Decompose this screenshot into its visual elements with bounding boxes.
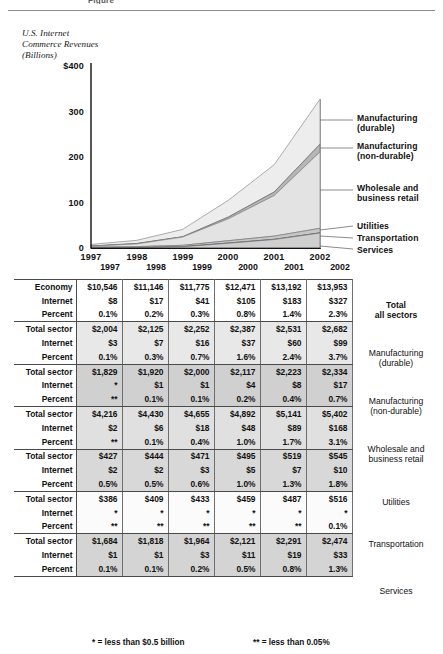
table-cell: $1 xyxy=(76,548,122,562)
table-cell: 0.2% xyxy=(214,392,260,406)
table-cell: 1.0% xyxy=(214,477,260,491)
table-cell: $2,682 xyxy=(306,322,352,336)
row-label: Percent xyxy=(14,308,76,322)
table-cell: $17 xyxy=(306,379,352,393)
table-cell: $105 xyxy=(214,294,260,308)
table-row: Percent0.1%0.1%0.2%0.5%0.8%1.3% xyxy=(14,562,352,576)
table-cell: 0.8% xyxy=(214,308,260,322)
table-cell: $2,117 xyxy=(214,364,260,378)
table-cell: 0.7% xyxy=(306,392,352,406)
table-cell: 0.2% xyxy=(168,562,214,576)
table-cell: $2,252 xyxy=(168,322,214,336)
table-cell: 1.0% xyxy=(214,435,260,449)
row-label: Total sector xyxy=(14,364,76,378)
table-cell: $427 xyxy=(76,449,122,463)
table-cell: $8 xyxy=(260,379,306,393)
x-tick-2000: 2000 xyxy=(208,252,248,262)
table-cell: 0.1% xyxy=(122,392,168,406)
table-cell: * xyxy=(168,506,214,520)
row-label: Percent xyxy=(14,477,76,491)
table-cell: $516 xyxy=(306,491,352,505)
table-cell: $37 xyxy=(214,336,260,350)
table-cell: 0.1% xyxy=(76,350,122,364)
table-cell: $471 xyxy=(168,449,214,463)
row-label: Internet xyxy=(14,548,76,562)
table-cell: $433 xyxy=(168,491,214,505)
table-row: Percent0.5%0.5%0.6%1.0%1.3%1.8% xyxy=(14,477,352,491)
table-cell: $5 xyxy=(214,463,260,477)
table-cell: $2,125 xyxy=(122,322,168,336)
legend-leader-lines xyxy=(320,120,353,249)
table-cell: 1.6% xyxy=(214,350,260,364)
sector-label-manufacturing-nondurable: Manufacturing (non-durable) xyxy=(350,396,442,417)
table-cell: 0.1% xyxy=(168,392,214,406)
table-cell: $2,223 xyxy=(260,364,306,378)
sector-label-manufacturing-durable: Manufacturing (durable) xyxy=(350,348,442,369)
table-grid: Economy$10,546$11,146$11,775$12,471$13,1… xyxy=(14,279,353,577)
table-row: Percent**0.1%0.1%0.2%0.4%0.7% xyxy=(14,392,352,406)
table-cell: 1.3% xyxy=(260,477,306,491)
table-cell: 0.8% xyxy=(260,562,306,576)
table-cell: 3.7% xyxy=(306,350,352,364)
table-cell: $2,334 xyxy=(306,364,352,378)
table-row: Internet$8$17$41$105$183$327 xyxy=(14,294,352,308)
table-cell: $13,192 xyxy=(260,280,306,294)
legend-utilities: Utilities xyxy=(357,221,389,231)
table-cell: $11 xyxy=(214,548,260,562)
table-cell: 1.7% xyxy=(260,435,306,449)
table-cell: 0.6% xyxy=(168,477,214,491)
table-cell: $7 xyxy=(122,336,168,350)
table-cell: $4 xyxy=(214,379,260,393)
table-cell: $519 xyxy=(260,449,306,463)
col-header-2002: 2002 xyxy=(317,262,363,272)
table-cell: $2,387 xyxy=(214,322,260,336)
table-row: Total sector$427$444$471$495$519$545 xyxy=(14,449,352,463)
col-header-1999: 1999 xyxy=(179,262,225,272)
table-cell: 0.3% xyxy=(122,350,168,364)
table-cell: $2,004 xyxy=(76,322,122,336)
x-tick-1997: 1997 xyxy=(71,252,111,262)
table-cell: $2,474 xyxy=(306,534,352,548)
table-cell: $11,146 xyxy=(122,280,168,294)
table-cell: ** xyxy=(76,520,122,534)
table-cell: ** xyxy=(214,520,260,534)
col-header-2001: 2001 xyxy=(271,262,317,272)
x-tick-2001: 2001 xyxy=(254,252,294,262)
table-cell: $99 xyxy=(306,336,352,350)
row-label: Total sector xyxy=(14,534,76,548)
table-cell: $409 xyxy=(122,491,168,505)
table-cell: $3 xyxy=(168,463,214,477)
table-row: Internet$2$6$18$48$89$168 xyxy=(14,421,352,435)
table-cell: $2 xyxy=(122,463,168,477)
row-label: Total sector xyxy=(14,449,76,463)
table-cell: $5,141 xyxy=(260,407,306,421)
table-cell: $4,892 xyxy=(214,407,260,421)
table-cell: ** xyxy=(76,392,122,406)
table-cell: * xyxy=(260,506,306,520)
sector-label-transportation: Transportation xyxy=(350,539,442,549)
row-label: Total sector xyxy=(14,322,76,336)
row-label: Internet xyxy=(14,463,76,477)
table-cell: 0.3% xyxy=(168,308,214,322)
table-cell: 0.7% xyxy=(168,350,214,364)
table-cell: $2,121 xyxy=(214,534,260,548)
table-cell: $17 xyxy=(122,294,168,308)
table-row: Internet$2$2$3$5$7$10 xyxy=(14,463,352,477)
table-row: Internet$1$1$3$11$19$33 xyxy=(14,548,352,562)
table-cell: $2 xyxy=(76,463,122,477)
table-row: Percent0.1%0.3%0.7%1.6%2.4%3.7% xyxy=(14,350,352,364)
table-cell: 0.1% xyxy=(76,308,122,322)
table-cell: * xyxy=(306,506,352,520)
table-cell: $1 xyxy=(168,379,214,393)
sector-label-services: Services xyxy=(350,586,442,596)
table-cell: 0.5% xyxy=(214,562,260,576)
table-row: Total sector$1,829$1,920$2,000$2,117$2,2… xyxy=(14,364,352,378)
table-cell: $3 xyxy=(76,336,122,350)
row-label: Percent xyxy=(14,435,76,449)
table-cell: $7 xyxy=(260,463,306,477)
table-cell: 1.3% xyxy=(306,562,352,576)
table-row: Economy$10,546$11,146$11,775$12,471$13,1… xyxy=(14,280,352,294)
table-cell: $168 xyxy=(306,421,352,435)
table-cell: $4,216 xyxy=(76,407,122,421)
table-row: Total sector$1,684$1,818$1,964$2,121$2,2… xyxy=(14,534,352,548)
